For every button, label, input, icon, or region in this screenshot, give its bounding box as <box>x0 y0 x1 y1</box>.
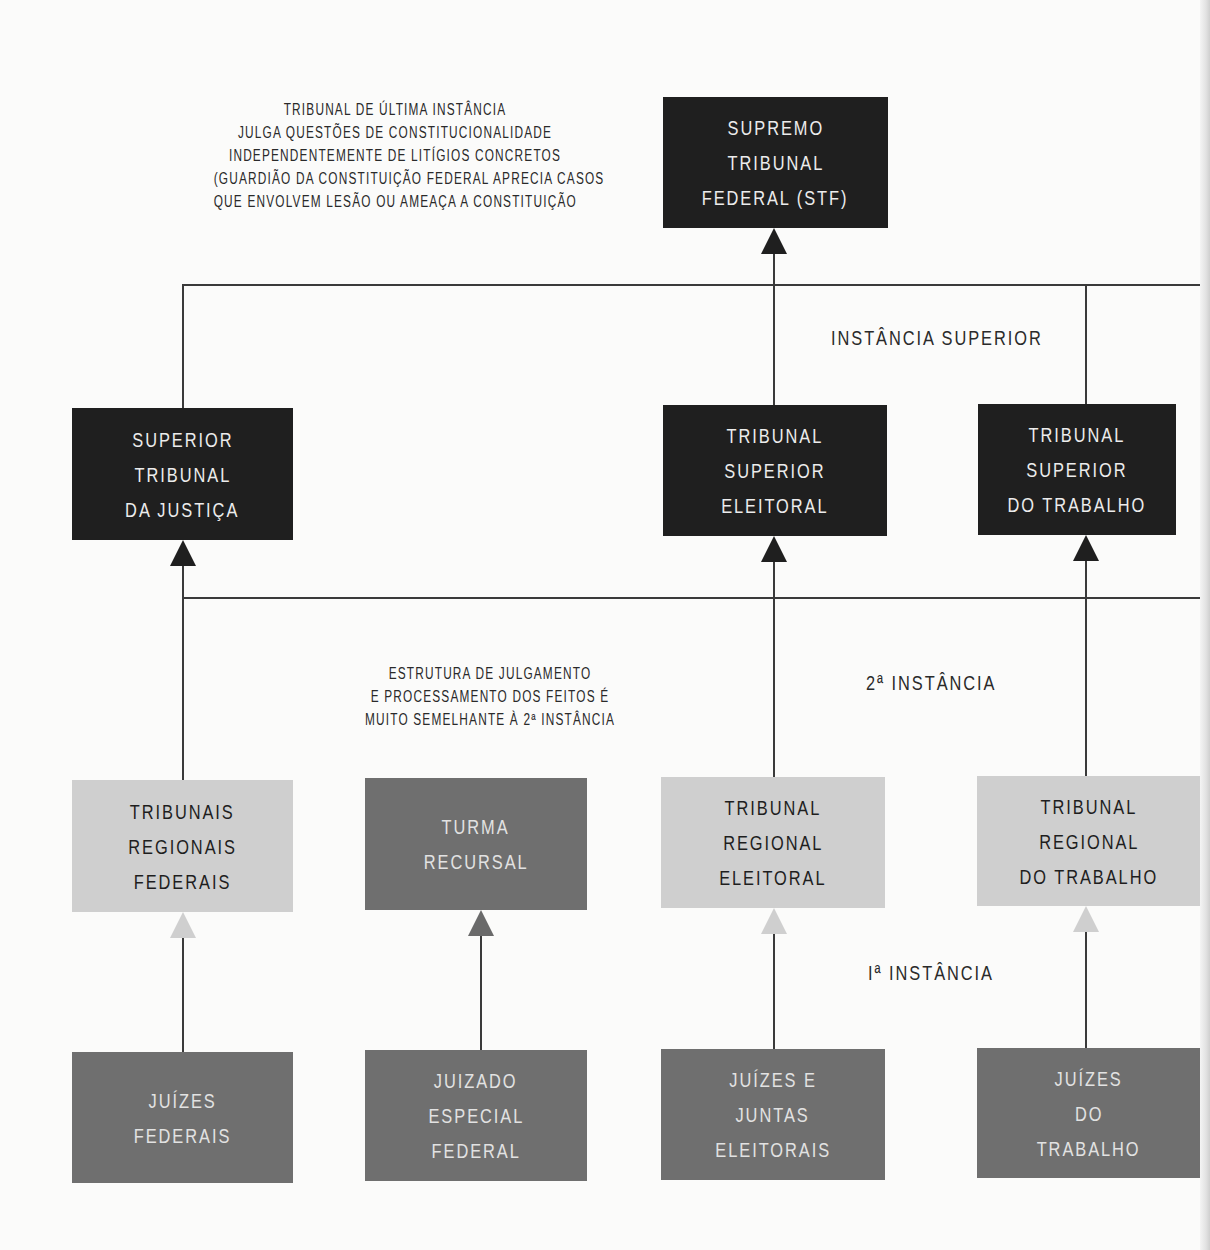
connector-stf-vertical <box>773 252 775 405</box>
node-label: SUPERIOR <box>132 422 233 457</box>
connector-tre-tse <box>773 561 775 777</box>
node-label: SUPERIOR <box>724 453 825 488</box>
node-stf: SUPREMO TRIBUNAL FEDERAL (STF) <box>663 97 888 228</box>
node-juizado-especial-federal: JUIZADO ESPECIAL FEDERAL <box>365 1050 587 1181</box>
connector-second-horizontal <box>182 597 1205 599</box>
connector-jf-trf <box>182 937 184 1052</box>
node-tse: TRIBUNAL SUPERIOR ELEITORAL <box>663 405 887 536</box>
note-line: MUITO SEMELHANTE À 2ª INSTÂNCIA <box>364 708 616 731</box>
note-line: (GUARDIÃO DA CONSTITUIÇÃO FEDERAL APRECI… <box>214 167 577 190</box>
node-label: ELEITORAIS <box>715 1132 831 1167</box>
node-trf: TRIBUNAIS REGIONAIS FEDERAIS <box>72 780 293 912</box>
node-label: TRIBUNAL <box>1041 789 1138 824</box>
node-label: DA JUSTIÇA <box>125 492 239 527</box>
node-label: FEDERAL (STF) <box>702 180 849 215</box>
note-line: INDEPENDENTEMENTE DE LITÍGIOS CONCRETOS <box>214 144 577 167</box>
node-juizes-juntas-eleitorais: JUÍZES E JUNTAS ELEITORAIS <box>661 1049 885 1180</box>
node-tst: TRIBUNAL SUPERIOR DO TRABALHO <box>978 404 1176 535</box>
note-line: QUE ENVOLVEM LESÃO OU AMEAÇA A CONSTITUI… <box>214 190 577 213</box>
node-label: TRIBUNAL <box>134 457 231 492</box>
node-juizes-federais: JUÍZES FEDERAIS <box>72 1052 293 1183</box>
connector-superior-horizontal <box>182 284 1205 286</box>
arrow-up-icon <box>761 228 787 254</box>
node-label: REGIONAL <box>1039 824 1139 859</box>
arrow-up-icon <box>761 536 787 562</box>
note-line: E PROCESSAMENTO DOS FEITOS É <box>364 685 616 708</box>
arrow-up-icon <box>170 540 196 566</box>
node-label: TURMA <box>442 809 510 844</box>
connector-trf-stj <box>182 565 184 780</box>
note-line: TRIBUNAL DE ÚLTIMA INSTÂNCIA <box>214 98 577 121</box>
node-label: FEDERAL <box>431 1133 520 1168</box>
node-label: RECURSAL <box>424 844 529 879</box>
connector-jje-tre <box>773 933 775 1049</box>
page-binding-edge <box>1200 0 1210 1250</box>
level-label-second: 2ª INSTÂNCIA <box>866 671 997 695</box>
node-label: JUNTAS <box>736 1097 810 1132</box>
node-label: ELEITORAL <box>719 860 826 895</box>
note-line: ESTRUTURA DE JULGAMENTO <box>364 662 616 685</box>
connector-jt-trt <box>1085 932 1087 1048</box>
stf-description-note: TRIBUNAL DE ÚLTIMA INSTÂNCIA JULGA QUEST… <box>150 98 640 213</box>
node-trt: TRIBUNAL REGIONAL DO TRABALHO <box>977 776 1201 906</box>
connector-jef-turma <box>480 935 482 1050</box>
node-juizes-trabalho: JUÍZES DO TRABALHO <box>977 1048 1201 1178</box>
arrow-up-icon <box>468 910 494 936</box>
arrow-up-icon <box>1073 535 1099 561</box>
node-label: FEDERAIS <box>134 864 232 899</box>
turma-recursal-note: ESTRUTURA DE JULGAMENTO E PROCESSAMENTO … <box>320 662 660 731</box>
connector-trt-tst <box>1085 560 1087 776</box>
node-label: ELEITORAL <box>721 488 828 523</box>
node-label: TRIBUNAL <box>727 145 824 180</box>
node-label: ESPECIAL <box>428 1098 524 1133</box>
connector-stj-up <box>182 284 184 408</box>
note-line: JULGA QUESTÕES DE CONSTITUCIONALIDADE <box>214 121 577 144</box>
node-label: JUIZADO <box>434 1063 518 1098</box>
node-label: TRIBUNAL <box>725 790 822 825</box>
node-label: FEDERAIS <box>134 1118 232 1153</box>
arrow-up-icon <box>170 912 196 938</box>
node-label: TRIBUNAL <box>727 418 824 453</box>
level-label-first: Iª INSTÂNCIA <box>868 961 994 985</box>
node-label: JUÍZES <box>1055 1061 1123 1096</box>
node-stj: SUPERIOR TRIBUNAL DA JUSTIÇA <box>72 408 293 540</box>
node-label: JUÍZES E <box>729 1062 817 1097</box>
arrow-up-icon <box>1073 906 1099 932</box>
node-label: SUPREMO <box>727 110 823 145</box>
node-label: DO TRABALHO <box>1020 859 1159 894</box>
node-label: REGIONAL <box>723 825 823 860</box>
arrow-up-icon <box>761 908 787 934</box>
node-label: REGIONAIS <box>128 829 237 864</box>
node-label: TRABALHO <box>1037 1131 1141 1166</box>
judiciary-structure-diagram: TRIBUNAL DE ÚLTIMA INSTÂNCIA JULGA QUEST… <box>0 0 1210 1250</box>
level-label-superior: INSTÂNCIA SUPERIOR <box>831 326 1043 350</box>
node-label: SUPERIOR <box>1026 452 1127 487</box>
node-label: DO TRABALHO <box>1008 487 1147 522</box>
connector-tst-up <box>1085 284 1087 404</box>
node-tre: TRIBUNAL REGIONAL ELEITORAL <box>661 777 885 908</box>
node-label: DO <box>1075 1096 1103 1131</box>
node-turma-recursal: TURMA RECURSAL <box>365 778 587 910</box>
node-label: JUÍZES <box>148 1083 216 1118</box>
node-label: TRIBUNAL <box>1029 417 1126 452</box>
node-label: TRIBUNAIS <box>130 794 235 829</box>
